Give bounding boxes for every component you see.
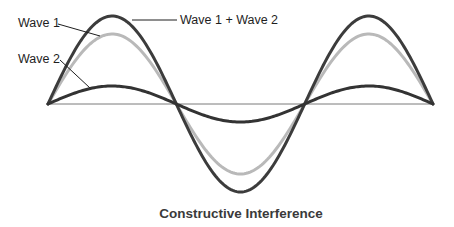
wave-1-label: Wave 1 [18, 16, 60, 30]
diagram-caption: Constructive Interference [159, 206, 323, 221]
wave-2-label: Wave 2 [18, 52, 60, 66]
sum-wave-label: Wave 1 + Wave 2 [180, 13, 278, 27]
interference-diagram: Wave 1 Wave 2 Wave 1 + Wave 2 Constructi… [0, 0, 454, 227]
